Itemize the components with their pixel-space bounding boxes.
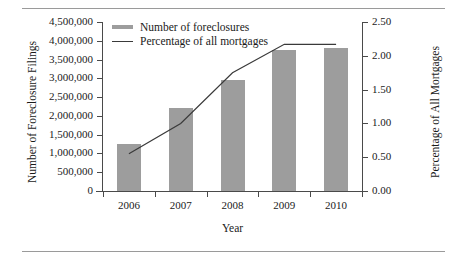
chart-legend: Number of foreclosuresPercentage of all … (112, 20, 268, 48)
x-axis-title: Year (103, 222, 362, 234)
left-tick-mark (97, 191, 102, 192)
right-tick-mark (363, 157, 368, 158)
x-tick-mark (362, 192, 363, 197)
left-tick-mark (97, 78, 102, 79)
bar-2008 (221, 80, 245, 191)
line-swatch-icon (112, 41, 133, 42)
x-tick-mark (310, 192, 311, 197)
left-tick-mark (97, 172, 102, 173)
left-tick-label: 4,000,000 (49, 35, 93, 46)
right-tick-label: 2.00 (372, 50, 391, 61)
left-tick-mark (97, 22, 102, 23)
x-tick-mark (207, 192, 208, 197)
left-tick-mark (97, 116, 102, 117)
left-tick-label: 500,000 (57, 166, 93, 177)
left-tick-label: 1,000,000 (49, 147, 93, 158)
x-tick-mark (258, 192, 259, 197)
right-tick-mark (363, 90, 368, 91)
x-tick-label: 2010 (306, 200, 366, 211)
x-tick-mark (103, 192, 104, 197)
bar-2010 (324, 48, 348, 191)
figure-bottom-rule (22, 251, 445, 252)
left-tick-label: 3,000,000 (49, 72, 93, 83)
left-tick-label: 0 (88, 185, 94, 196)
right-tick-label: 0.00 (372, 185, 391, 196)
right-tick-label: 2.50 (372, 16, 391, 27)
legend-item-1: Number of foreclosures (112, 20, 268, 34)
right-tick-label: 1.50 (372, 84, 391, 95)
left-tick-label: 4,500,000 (49, 16, 93, 27)
left-tick-mark (97, 60, 102, 61)
left-tick-label: 1,500,000 (49, 129, 93, 140)
right-tick-mark (363, 191, 368, 192)
bar-2006 (117, 144, 141, 191)
bar-2009 (272, 50, 296, 191)
x-axis-spine (96, 191, 368, 192)
right-tick-label: 0.50 (372, 151, 391, 162)
left-tick-mark (97, 135, 102, 136)
legend-item-2: Percentage of all mortgages (112, 34, 268, 48)
left-tick-mark (97, 41, 102, 42)
right-axis-title: Percentage of All Mortgages (429, 22, 441, 202)
right-tick-label: 1.00 (372, 117, 391, 128)
legend-label: Number of foreclosures (140, 20, 249, 34)
right-axis-spine (362, 22, 363, 192)
left-axis-title: Number of Foreclosure Filings (26, 22, 38, 202)
right-tick-mark (363, 22, 368, 23)
right-tick-mark (363, 56, 368, 57)
bar-2007 (169, 108, 193, 191)
left-tick-mark (97, 97, 102, 98)
bar-swatch-icon (112, 25, 133, 29)
left-tick-label: 3,500,000 (49, 54, 93, 65)
right-tick-mark (363, 123, 368, 124)
left-tick-label: 2,500,000 (49, 91, 93, 102)
legend-label: Percentage of all mortgages (140, 34, 268, 48)
x-tick-mark (155, 192, 156, 197)
figure-top-rule (22, 8, 445, 9)
left-tick-mark (97, 153, 102, 154)
left-tick-label: 2,000,000 (49, 110, 93, 121)
figure: Number of Foreclosure Filings Percentage… (0, 0, 467, 264)
